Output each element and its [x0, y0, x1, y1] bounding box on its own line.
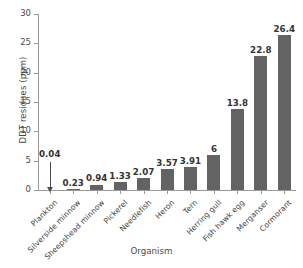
bar-value-label: 3.91 — [174, 156, 206, 166]
bar-value-label: 22.8 — [245, 45, 277, 55]
y-tick-label: 20 — [20, 67, 31, 77]
bar-value-label: 0.04 — [34, 149, 66, 159]
plot-area: 051015202530 0.040.230.941.332.073.573.9… — [38, 14, 296, 190]
bar — [207, 155, 220, 190]
x-tick — [144, 190, 145, 194]
y-tick-label: 25 — [20, 37, 31, 47]
y-tick: 20 — [34, 73, 38, 74]
x-tick — [167, 190, 168, 194]
y-tick: 15 — [34, 102, 38, 103]
category-label-text: Tern — [182, 198, 200, 216]
y-tick: 5 — [34, 161, 38, 162]
y-tick-label: 15 — [20, 96, 31, 106]
y-tick: 25 — [34, 43, 38, 44]
bar-value-label: 26.4 — [268, 24, 300, 34]
y-tick-label: 5 — [26, 155, 31, 165]
x-tick — [190, 190, 191, 194]
y-tick: 10 — [34, 131, 38, 132]
ddt-biomagnification-bar-chart: DDT residues (ppm) 051015202530 0.040.23… — [0, 0, 303, 268]
annotation-arrow-icon — [50, 162, 51, 187]
bar-value-label: 13.8 — [221, 98, 253, 108]
y-tick-label: 10 — [20, 125, 31, 135]
bar — [254, 56, 267, 190]
x-tick — [97, 190, 98, 194]
x-tick — [284, 190, 285, 194]
x-tick — [73, 190, 74, 194]
x-axis-title: Organism — [0, 246, 303, 256]
bar-value-label: 6 — [198, 144, 230, 154]
x-tick — [261, 190, 262, 194]
y-tick-label: 0 — [26, 184, 31, 194]
y-tick-label: 30 — [20, 8, 31, 18]
y-axis-line — [38, 14, 39, 190]
category-label-text: Heron — [154, 198, 177, 221]
y-tick: 0 — [34, 190, 38, 191]
y-tick: 30 — [34, 14, 38, 15]
x-tick — [120, 190, 121, 194]
x-tick — [237, 190, 238, 194]
x-tick — [214, 190, 215, 194]
